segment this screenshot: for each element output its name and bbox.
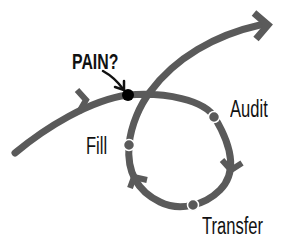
incoming-path [15,95,128,153]
transfer-label: Transfer [202,213,263,240]
fill-label: Fill [86,133,107,160]
audit-node [209,112,220,123]
pain-label: PAIN? [72,49,118,75]
pain-point-node [122,89,134,101]
transfer-node [188,200,199,211]
audit-label: Audit [230,96,268,123]
fill-node [124,140,135,151]
